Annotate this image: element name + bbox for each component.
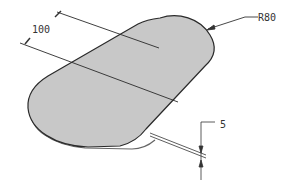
radius-leader <box>207 17 258 30</box>
thickness-dimension-label: 5 <box>220 119 226 130</box>
radius-dimension-label: R80 <box>258 12 276 23</box>
thickness-dimension <box>150 122 215 180</box>
technical-drawing: 100 R80 5 <box>0 0 292 191</box>
arrow-head-icon <box>207 25 215 30</box>
thickness-extension-line-top <box>150 133 206 155</box>
arrow-up-icon <box>199 160 203 167</box>
arrow-tick-lower <box>25 38 30 44</box>
plate-top-face <box>28 16 214 147</box>
width-dimension-label: 100 <box>32 24 50 35</box>
plate-part <box>28 16 214 149</box>
arrow-down-icon <box>199 146 203 153</box>
thickness-extension-line-bottom <box>150 136 206 158</box>
